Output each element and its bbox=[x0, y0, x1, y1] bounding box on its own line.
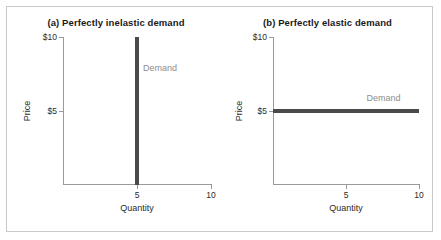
panel-a-y-tick-10 bbox=[59, 37, 64, 38]
panel-a-y-ticklabel-10: $10 bbox=[43, 32, 57, 42]
panel-a-demand-label: Demand bbox=[143, 63, 177, 73]
panel-a-x-ticklabel-5: 5 bbox=[135, 190, 140, 200]
panel-b-demand-label: Demand bbox=[366, 93, 400, 103]
panel-a-plot-area: $10 $5 5 10 Demand Price Quantity bbox=[63, 37, 211, 185]
chart-panel-b: (b) Perfectly elastic demand $10 $5 5 10… bbox=[223, 7, 432, 231]
panel-b-x-ticklabel-10: 10 bbox=[414, 190, 423, 200]
panel-b-y-axis-title: Price bbox=[234, 101, 244, 122]
panel-a-title: (a) Perfectly inelastic demand bbox=[9, 17, 223, 28]
panel-b-y-ticklabel-5: $5 bbox=[258, 106, 267, 116]
panel-b-x-axis-title: Quantity bbox=[329, 203, 363, 213]
panel-container: (a) Perfectly inelastic demand $10 $5 5 … bbox=[7, 7, 432, 231]
panel-a-y-axis-title: Price bbox=[22, 101, 32, 122]
panel-b-x-tick-5 bbox=[346, 184, 347, 189]
panel-b-plot-area: $10 $5 5 10 Demand Price Quantity bbox=[273, 37, 419, 185]
panel-a-y-ticklabel-5: $5 bbox=[48, 106, 57, 116]
panel-a-x-tick-10 bbox=[211, 184, 212, 189]
panel-b-demand-curve bbox=[273, 109, 419, 113]
panel-b-title: (b) Perfectly elastic demand bbox=[223, 17, 432, 28]
panel-b-y-ticklabel-10: $10 bbox=[253, 32, 267, 42]
panel-a-y-tick-5 bbox=[59, 111, 64, 112]
panel-b-x-tick-10 bbox=[419, 184, 420, 189]
figure-frame: (a) Perfectly inelastic demand $10 $5 5 … bbox=[6, 6, 433, 232]
panel-a-x-ticklabel-10: 10 bbox=[206, 190, 215, 200]
panel-b-x-ticklabel-5: 5 bbox=[344, 190, 349, 200]
panel-b-y-tick-10 bbox=[269, 37, 274, 38]
panel-a-x-axis-title: Quantity bbox=[120, 203, 154, 213]
chart-panel-a: (a) Perfectly inelastic demand $10 $5 5 … bbox=[9, 7, 223, 231]
panel-a-demand-curve bbox=[135, 37, 139, 185]
